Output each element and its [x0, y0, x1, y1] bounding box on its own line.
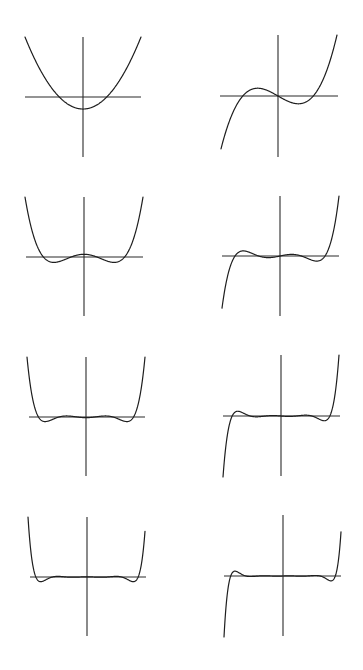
panel-degree-2 [25, 37, 141, 157]
panel-degree-7 [223, 355, 340, 477]
panel-degree-3 [220, 35, 338, 157]
polynomial-curve [221, 35, 337, 149]
polynomial-graph-grid [0, 0, 363, 670]
panel-degree-5 [222, 196, 339, 316]
panel-degree-4 [25, 197, 143, 316]
panel-degree-6 [27, 357, 145, 476]
panel-degree-9 [224, 515, 341, 637]
panel-degree-8 [28, 517, 146, 636]
